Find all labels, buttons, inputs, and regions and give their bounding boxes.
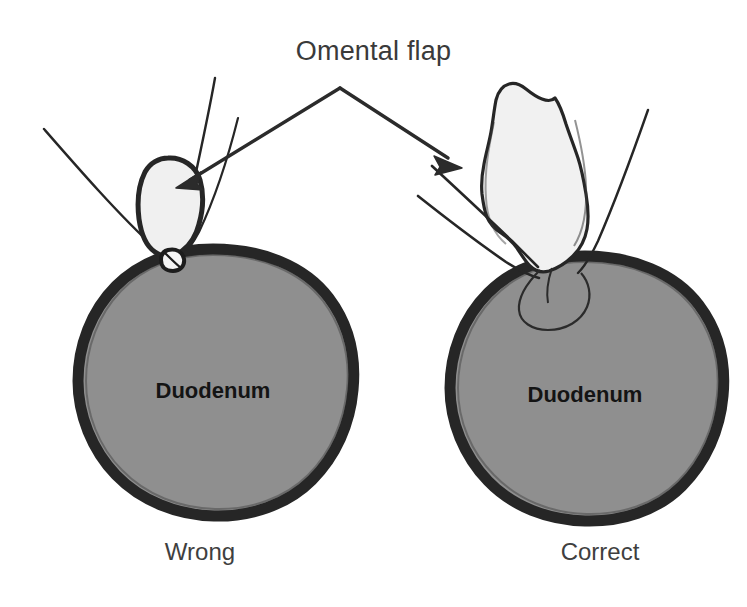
panel-caption-wrong: Wrong bbox=[110, 538, 290, 566]
omental-flap-diagram: Omental flap bbox=[0, 0, 747, 607]
organ-label-wrong: Duodenum bbox=[113, 378, 313, 404]
omental-flap-large bbox=[482, 83, 588, 271]
organ-label-correct: Duodenum bbox=[485, 382, 685, 408]
leader-line-right-branch bbox=[340, 88, 448, 158]
diagram-canvas bbox=[0, 0, 747, 607]
leader-line-left-branch bbox=[190, 88, 340, 180]
panel-caption-correct: Correct bbox=[510, 538, 690, 566]
suture-thread-right-upper bbox=[578, 110, 648, 273]
omental-flap-small bbox=[138, 158, 202, 256]
